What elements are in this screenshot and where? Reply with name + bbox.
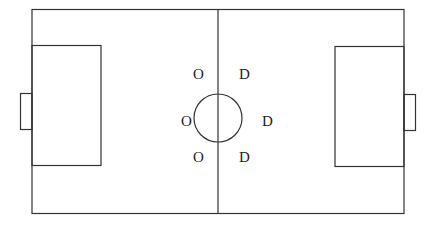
player-d-top: D [239,66,250,82]
left-goal [21,94,33,130]
player-o-top: O [193,66,204,82]
player-o-middle: O [181,113,192,129]
player-d-middle: D [262,113,273,129]
player-o-bottom: O [193,149,204,165]
player-d-bottom: D [239,149,250,165]
soccer-field: O O O D D D [0,0,435,226]
right-goal [404,95,416,131]
right-penalty-box [335,47,404,167]
left-penalty-box [32,46,101,166]
